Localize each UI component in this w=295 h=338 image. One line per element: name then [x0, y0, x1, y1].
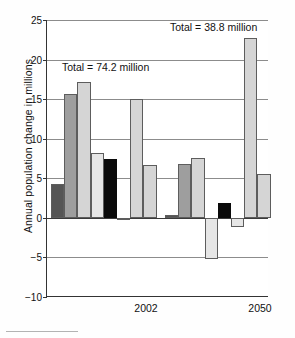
bar-2002-8: [143, 165, 156, 218]
y-tick-label-25: 25: [31, 15, 42, 26]
y-tick-label-15: 15: [31, 94, 42, 105]
y-tick-label--10: −10: [25, 292, 42, 303]
bar-2050-7: [244, 38, 257, 218]
bar-2050-2: [178, 164, 191, 218]
bar-2050-3: [191, 158, 204, 218]
bar-2002-1: [51, 184, 64, 218]
x-tick-label-2050: 2050: [248, 302, 271, 314]
total-annotation-2002: Total = 74.2 million: [62, 61, 149, 73]
y-tick-label-5: 5: [36, 173, 42, 184]
bar-2002-5: [104, 159, 117, 218]
bar-2002-7: [130, 99, 143, 218]
y-tick-label-10: 10: [31, 133, 42, 144]
bar-2050-5: [218, 203, 231, 218]
x-tick-label-2002: 2002: [134, 302, 157, 314]
bar-2050-8: [257, 174, 270, 218]
y-tick-label--5: −5: [31, 252, 42, 263]
y-tick-label-20: 20: [31, 54, 42, 65]
bar-2002-2: [64, 94, 77, 217]
bar-2002-6: [117, 218, 130, 220]
y-tickmark--10: [43, 297, 47, 298]
total-annotation-2050: Total = 38.8 million: [170, 21, 257, 33]
bar-2050-4: [205, 218, 218, 259]
bar-2002-4: [91, 153, 104, 218]
bar-2050-6: [231, 218, 244, 227]
footer-rule: [6, 331, 78, 332]
bar-2002-3: [77, 82, 90, 218]
chart-figure: Annual population change in millions 252…: [0, 0, 295, 338]
bar-2050-1: [165, 215, 178, 217]
y-tick-label-0: 0: [36, 212, 42, 223]
